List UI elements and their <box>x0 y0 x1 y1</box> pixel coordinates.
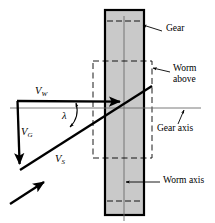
worm-gear-velocity-figure: Gear Worm above Gear axis Worm axis VW V… <box>0 0 215 223</box>
vg-subscript: G <box>27 131 32 139</box>
sliding-direction-arrow <box>10 182 44 204</box>
vg-vector-arrow <box>18 101 20 164</box>
gear-callout-leader <box>143 25 162 31</box>
vs-subscript: S <box>61 158 65 166</box>
gear-axis-callout-leader <box>178 110 184 124</box>
worm-axis-label: Worm axis <box>163 176 204 186</box>
lead-angle-arc <box>70 103 77 127</box>
gear-label: Gear <box>166 24 184 34</box>
vg-vector-label: VG <box>21 126 32 137</box>
worm-above-callout-leader <box>153 68 170 72</box>
vw-vector-arrow <box>17 101 120 102</box>
vw-vector-label: VW <box>35 85 47 96</box>
gear-axis-label: Gear axis <box>157 124 193 134</box>
vw-subscript: W <box>41 90 47 98</box>
worm-above-label: Worm above <box>173 63 197 84</box>
lead-angle-label: λ <box>62 110 67 121</box>
worm-above-label-line1: Worm <box>173 63 197 74</box>
vs-vector-label: VS <box>55 153 65 164</box>
worm-above-label-line2: above <box>173 74 197 85</box>
